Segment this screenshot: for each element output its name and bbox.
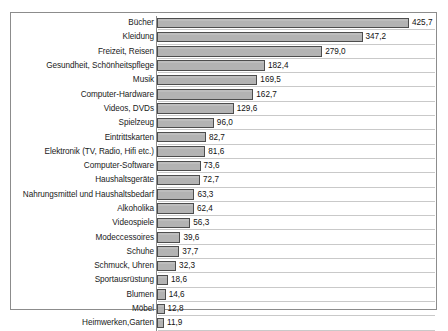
category-label: Computer-Software (11, 161, 156, 171)
bar-row: Schuhe37,7 (11, 245, 436, 259)
bar-highlight (158, 290, 165, 292)
bar-row: Möbel12,8 (11, 302, 436, 316)
value-label: 62,4 (194, 204, 213, 214)
category-label: Gesundheit, Schönheitspflege (11, 61, 156, 71)
bar-plot-cell: 279,0 (156, 45, 436, 59)
bar-plot-cell: 82,7 (156, 130, 436, 144)
bar-highlight (158, 61, 264, 63)
bar (157, 218, 190, 229)
bar-highlight (158, 147, 204, 149)
category-label: Videos, DVDs (11, 104, 156, 114)
bar (157, 261, 176, 272)
bar (157, 246, 179, 257)
bar-highlight (158, 47, 321, 49)
bar-row: Videos, DVDs129,6 (11, 102, 436, 116)
chart-frame: Bücher425,7Kleidung347,2Freizeit, Reisen… (10, 12, 437, 310)
value-label: 37,7 (179, 247, 198, 257)
bar-plot-cell: 32,3 (156, 259, 436, 273)
bar-row: Nahrungsmittel und Haushaltsbedarf63,3 (11, 188, 436, 202)
bar (157, 189, 194, 200)
value-label: 169,5 (257, 75, 281, 85)
value-label: 12,8 (165, 304, 184, 314)
category-label: Kleidung (11, 32, 156, 42)
bar-highlight (158, 219, 189, 221)
value-label: 14,6 (166, 290, 185, 300)
bar-plot-cell: 96,0 (156, 116, 436, 130)
bar-row: Blumen14,6 (11, 288, 436, 302)
value-label: 18,6 (168, 275, 187, 285)
bar-row: Kleidung347,2 (11, 30, 436, 44)
bar-highlight (158, 276, 167, 278)
bar-row: Gesundheit, Schönheitspflege182,4 (11, 59, 436, 73)
category-label: Eintrittskarten (11, 133, 156, 143)
bar-plot-cell: 73,6 (156, 159, 436, 173)
bar-highlight (158, 90, 252, 92)
bar-highlight (158, 247, 178, 249)
bar-highlight (158, 162, 200, 164)
bar (157, 89, 253, 100)
category-label: Elektronik (TV, Radio, Hifi etc.) (11, 147, 156, 157)
value-label: 182,4 (265, 61, 289, 71)
bar-plot-cell: 14,6 (156, 288, 436, 302)
bar-plot-cell: 39,6 (156, 230, 436, 244)
category-label: Musik (11, 75, 156, 85)
bar-plot-cell: 62,4 (156, 202, 436, 216)
value-label: 425,7 (409, 18, 433, 28)
bar-row: Bücher425,7 (11, 16, 436, 30)
category-label: Schmuck, Uhren (11, 261, 156, 271)
bar (157, 161, 201, 172)
bar-row: Spielzeug96,0 (11, 116, 436, 130)
value-label: 11,9 (164, 318, 182, 328)
value-label: 56,3 (190, 218, 209, 228)
category-label: Alkoholika (11, 204, 156, 214)
bar-row: Heimwerken,Garten11,9 (11, 316, 436, 330)
category-label: Spielzeug (11, 118, 156, 128)
bar (157, 46, 322, 57)
value-label: 279,0 (322, 47, 346, 57)
bar-plot-cell: 11,9 (156, 316, 436, 330)
bar (157, 146, 205, 157)
category-label: Blumen (11, 290, 156, 300)
bar (157, 75, 257, 86)
bar (157, 318, 164, 329)
category-label: Nahrungsmittel und Haushaltsbedarf (11, 190, 156, 200)
bar (157, 103, 234, 114)
bar-row: Computer-Hardware162,7 (11, 87, 436, 101)
bar-plot-cell: 169,5 (156, 73, 436, 87)
bar-highlight (158, 190, 193, 192)
category-label: Bücher (11, 18, 156, 28)
bar-highlight (158, 204, 193, 206)
bar-plot-cell: 63,3 (156, 188, 436, 202)
value-label: 162,7 (253, 90, 277, 100)
bar-row: Alkoholika62,4 (11, 202, 436, 216)
bar-rows-container: Bücher425,7Kleidung347,2Freizeit, Reisen… (11, 16, 436, 309)
bar-highlight (158, 176, 199, 178)
bar-plot-cell: 182,4 (156, 59, 436, 73)
bar-highlight (158, 104, 233, 106)
bar-row: Freizeit, Reisen279,0 (11, 45, 436, 59)
bar-plot-cell: 72,7 (156, 173, 436, 187)
bar-plot-cell: 129,6 (156, 102, 436, 116)
bar-highlight (158, 233, 179, 235)
bar-row: Computer-Software73,6 (11, 159, 436, 173)
bar (157, 304, 165, 315)
bar (157, 175, 200, 186)
bar (157, 118, 214, 129)
bar-plot-cell: 12,8 (156, 302, 436, 316)
bar-row: Schmuck, Uhren32,3 (11, 259, 436, 273)
bar (157, 132, 206, 143)
bar-row: Eintrittskarten82,7 (11, 130, 436, 144)
category-label: Modeccessoires (11, 233, 156, 243)
bar-highlight (158, 19, 408, 21)
bar (157, 203, 194, 214)
bar (157, 32, 363, 43)
bar-row: Videospiele56,3 (11, 216, 436, 230)
value-label: 82,7 (206, 133, 225, 143)
value-label: 96,0 (214, 118, 233, 128)
category-label: Schuhe (11, 247, 156, 257)
bar-highlight (158, 262, 175, 264)
bar-plot-cell: 347,2 (156, 30, 436, 44)
bar-row: Musik169,5 (11, 73, 436, 87)
bar (157, 18, 409, 29)
category-label: Heimwerken,Garten (11, 318, 156, 328)
